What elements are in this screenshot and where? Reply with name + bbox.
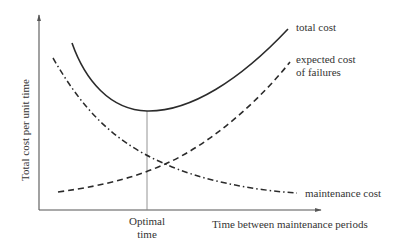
x-axis-label: Time between maintenance periods [212,218,368,230]
failures-cost-label-line1: expected cost [296,53,356,65]
total-cost-label: total cost [296,21,336,33]
optimal-time-label-line1: Optimal [129,215,165,227]
y-axis-label: Total cost per unit time [19,79,31,181]
maintenance-cost-label: maintenance cost [305,187,381,199]
optimal-time-label-line2: time [137,228,157,240]
failures-cost-label-line2: of failures [296,66,341,78]
chart: Total cost per unit time Time between ma… [0,0,401,250]
